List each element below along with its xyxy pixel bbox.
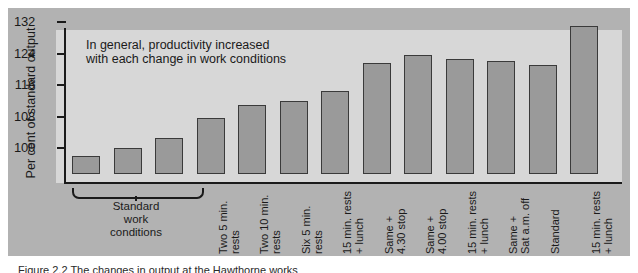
- x-axis-label: 15 min. rests + lunch: [466, 180, 490, 254]
- bar: [404, 55, 432, 174]
- bar: [114, 148, 142, 174]
- bar: [529, 65, 557, 174]
- y-tick-mark: [57, 116, 66, 118]
- bar: [321, 91, 349, 174]
- x-axis-label: Same + Sat a.m. off: [507, 180, 531, 254]
- bar: [72, 156, 100, 174]
- chart-annotation: In general, productivity increased with …: [86, 38, 286, 66]
- figure-container: 100108116124132 Per cent of standard out…: [0, 0, 638, 273]
- x-axis-label: 15 min. rests + lunch: [341, 180, 365, 254]
- bar: [197, 118, 225, 174]
- y-tick-mark: [57, 21, 66, 23]
- x-axis-label: Six 5 min. rests: [300, 180, 324, 254]
- standard-conditions-bracket: [72, 188, 204, 199]
- y-tick-mark: [57, 147, 66, 149]
- bar: [155, 138, 183, 174]
- x-axis-label: 15 min. rests + lunch: [590, 180, 614, 254]
- x-axis-label: Two 5 min. rests: [217, 180, 241, 254]
- x-axis-label: Two 10 min. rests: [258, 180, 282, 254]
- bar: [363, 63, 391, 174]
- standard-conditions-label: Standard work conditions: [72, 200, 200, 239]
- bar: [446, 59, 474, 174]
- chart-panel: 100108116124132 Per cent of standard out…: [8, 8, 630, 256]
- bar: [238, 105, 266, 174]
- bar: [487, 61, 515, 174]
- y-axis-title: Per cent of standard output: [24, 18, 38, 188]
- y-axis-line: [64, 28, 66, 184]
- bar: [280, 101, 308, 174]
- x-axis-label: Standard: [549, 180, 561, 254]
- x-axis-label: Same + 4.30 stop: [383, 180, 407, 254]
- x-axis-label: Same + 4.00 stop: [424, 180, 448, 254]
- bar: [570, 26, 598, 174]
- y-tick-mark: [57, 53, 66, 55]
- figure-caption: Figure 2.2 The changes in output at the …: [18, 264, 638, 273]
- y-tick-mark: [57, 84, 66, 86]
